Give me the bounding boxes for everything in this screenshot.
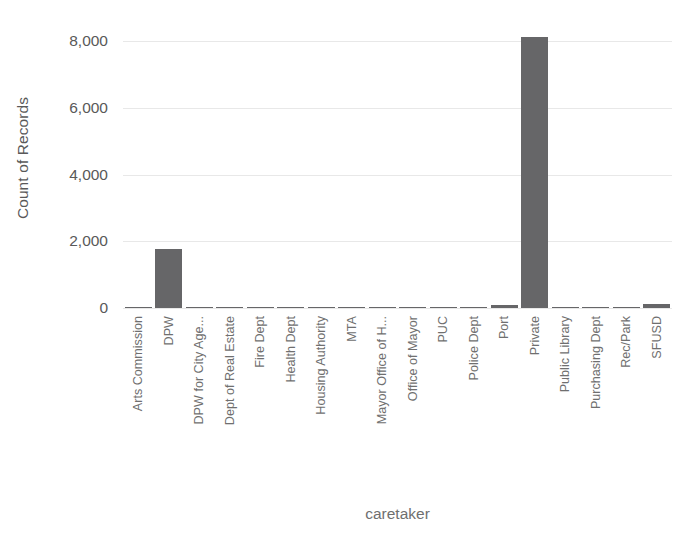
x-axis-tick-label: Police Dept	[467, 316, 481, 380]
x-axis-tick-slot: Mayor Office of H...	[367, 310, 398, 500]
bar-slot[interactable]	[367, 21, 398, 308]
x-axis-tick-slot: Fire Dept	[245, 310, 276, 500]
x-axis-tick-label: Arts Commission	[131, 316, 145, 411]
bar[interactable]	[125, 307, 152, 308]
x-axis-tick-labels: Arts CommissionDPWDPW for City Age...Dep…	[123, 310, 672, 500]
bar-slot[interactable]	[520, 21, 551, 308]
bar[interactable]	[247, 307, 274, 308]
bar-slot[interactable]	[459, 21, 490, 308]
bar-slot[interactable]	[428, 21, 459, 308]
x-axis-tick-slot: Arts Commission	[123, 310, 154, 500]
x-axis-tick-slot: SFUSD	[642, 310, 673, 500]
x-axis-tick-label: Mayor Office of H...	[375, 316, 389, 424]
bar-chart: Count of Records 02,0004,0006,0008,000 A…	[0, 0, 679, 557]
x-axis-tick-label: Purchasing Dept	[589, 316, 603, 409]
bar-slot[interactable]	[154, 21, 185, 308]
x-axis-tick-slot: Dept of Real Estate	[215, 310, 246, 500]
bar-slot[interactable]	[550, 21, 581, 308]
bar[interactable]	[369, 307, 396, 308]
x-axis-tick-label: Health Dept	[284, 316, 298, 383]
x-axis-tick-slot: DPW	[154, 310, 185, 500]
x-axis-tick-label: Office of Mayor	[406, 316, 420, 401]
x-axis-tick-label: Dept of Real Estate	[223, 316, 237, 425]
x-axis-tick-label: Housing Authority	[314, 316, 328, 415]
x-axis-tick-slot: PUC	[428, 310, 459, 500]
x-axis-tick-label: MTA	[345, 316, 359, 342]
y-axis-tick-label: 4,000	[69, 166, 108, 184]
bar-slot[interactable]	[489, 21, 520, 308]
bar-slot[interactable]	[398, 21, 429, 308]
x-axis-tick-slot: MTA	[337, 310, 368, 500]
x-axis-tick-label: PUC	[436, 316, 450, 343]
y-axis-tick-label: 8,000	[69, 32, 108, 50]
x-axis-tick-label: Private	[528, 316, 542, 355]
bar[interactable]	[552, 307, 579, 308]
bar-slot[interactable]	[306, 21, 337, 308]
y-axis-tick-labels: 02,0004,0006,0008,000	[44, 0, 116, 320]
bar[interactable]	[521, 37, 548, 308]
y-axis-title-label: Count of Records	[14, 96, 32, 218]
bar[interactable]	[460, 307, 487, 308]
x-axis-tick-label: DPW	[162, 316, 176, 345]
x-axis-tick-slot: Police Dept	[459, 310, 490, 500]
bar[interactable]	[430, 307, 457, 308]
bar-slot[interactable]	[245, 21, 276, 308]
x-axis-tick-slot: Office of Mayor	[398, 310, 429, 500]
bar[interactable]	[277, 307, 304, 308]
y-axis-title: Count of Records	[0, 0, 46, 315]
bar[interactable]	[186, 307, 213, 308]
bar-slot[interactable]	[123, 21, 154, 308]
x-axis-tick-label: DPW for City Age...	[192, 316, 206, 424]
gridline	[123, 308, 672, 309]
x-axis-tick-slot: Rec/Park	[611, 310, 642, 500]
bars-layer	[123, 21, 672, 308]
bar-slot[interactable]	[337, 21, 368, 308]
x-axis-tick-slot: Public Library	[550, 310, 581, 500]
x-axis-tick-label: Fire Dept	[253, 316, 267, 368]
x-axis-tick-slot: Housing Authority	[306, 310, 337, 500]
y-axis-tick-label: 0	[99, 299, 108, 317]
y-axis-tick-label: 6,000	[69, 99, 108, 117]
bar[interactable]	[308, 307, 335, 308]
x-axis-tick-slot: Private	[520, 310, 551, 500]
bar-slot[interactable]	[184, 21, 215, 308]
bar[interactable]	[582, 307, 609, 308]
bar[interactable]	[491, 305, 518, 308]
x-axis-tick-label: Port	[497, 316, 511, 339]
bar[interactable]	[399, 307, 426, 308]
bar-slot[interactable]	[276, 21, 307, 308]
plot-area	[123, 21, 672, 308]
x-axis-tick-label: Rec/Park	[619, 316, 633, 368]
x-axis-tick-slot: Health Dept	[276, 310, 307, 500]
x-axis-tick-slot: Purchasing Dept	[581, 310, 612, 500]
x-axis-title: caretaker	[123, 505, 672, 523]
bar[interactable]	[155, 249, 182, 308]
bar-slot[interactable]	[642, 21, 673, 308]
x-axis-tick-label: Public Library	[558, 316, 572, 392]
bar[interactable]	[338, 307, 365, 308]
x-axis-tick-slot: DPW for City Age...	[184, 310, 215, 500]
bar[interactable]	[643, 304, 670, 308]
bar[interactable]	[613, 307, 640, 309]
y-axis-tick-label: 2,000	[69, 232, 108, 250]
x-axis-tick-label: SFUSD	[650, 316, 664, 359]
x-axis-tick-slot: Port	[489, 310, 520, 500]
bar-slot[interactable]	[611, 21, 642, 308]
bar-slot[interactable]	[581, 21, 612, 308]
bar-slot[interactable]	[215, 21, 246, 308]
bar[interactable]	[216, 307, 243, 308]
